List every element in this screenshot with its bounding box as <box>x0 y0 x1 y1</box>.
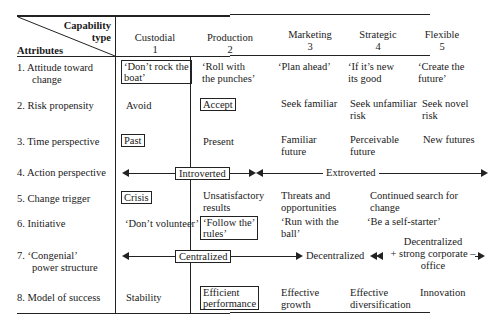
row-6-strategic-flexible: ‘Be a self-starter’ <box>367 216 441 228</box>
row-7-label: 7. ‘Congenial’ power structure <box>17 250 98 274</box>
bottom-rule <box>17 313 230 314</box>
arrow-right-icon <box>249 169 256 177</box>
cell-line: risk <box>422 110 468 122</box>
custodial-production-divider <box>190 56 191 313</box>
col-num: 1 <box>120 44 190 56</box>
row-6-production: ‘Follow the’ rules’ <box>200 216 258 240</box>
col-header-production: Production 2 <box>195 32 265 56</box>
cell-line: ‘Create the <box>418 61 464 73</box>
cell-line: boat’ <box>124 72 189 83</box>
cell-line: future’ <box>418 73 464 85</box>
row-8-custodial: Stability <box>126 292 162 304</box>
cell-line: Seek unfamiliar <box>350 98 417 110</box>
label-line: change <box>17 74 93 86</box>
cell-line: Seek novel <box>422 98 468 110</box>
row-2-label: 2. Risk propensity <box>17 100 94 112</box>
arrow-right-icon <box>478 252 485 260</box>
decentralized-strong-corporate-label: Decentralized + strong corporate – offic… <box>383 236 483 272</box>
row-6-marketing: ‘Run with the ball’ <box>281 216 339 240</box>
col-header-flexible: Flexible 5 <box>407 29 477 53</box>
cell-line: performance <box>203 298 256 309</box>
row-4-label: 4. Action perspective <box>17 167 106 179</box>
centralized-label: Centralized <box>175 250 231 263</box>
col-name: Flexible <box>407 29 477 41</box>
row-8-strategic: Effective diversification <box>350 287 411 311</box>
row-1-strategic: ‘If it’s new its good <box>348 61 394 85</box>
label-line: 7. ‘Congenial’ <box>17 250 98 262</box>
cell-line: change <box>370 202 458 214</box>
corner-capability-label: Capability <box>40 20 111 32</box>
row-8-flexible: Innovation <box>420 287 466 299</box>
corner-attributes-label: Attributes <box>17 45 63 57</box>
arrow-left-icon-2 <box>376 252 383 260</box>
row-1-production: ‘Roll with the punches’ <box>202 61 255 85</box>
cell-line: ball’ <box>281 228 339 240</box>
col-name: Production <box>195 32 265 44</box>
cell-line: Continued search for <box>370 190 458 202</box>
row-1-label: 1. Attitude toward change <box>17 62 93 86</box>
table-top-long-rule-right <box>230 14 430 15</box>
col-name: Marketing <box>275 29 345 41</box>
cell-line: the punches’ <box>202 73 255 85</box>
col-num: 5 <box>407 41 477 53</box>
cell-line: future <box>281 146 317 158</box>
row-2-marketing: Seek familiar <box>281 98 337 110</box>
col-header-strategic: Strategic 4 <box>343 29 413 53</box>
cell-line: Effective <box>281 287 319 299</box>
col-header-custodial: Custodial 1 <box>120 32 190 56</box>
row-3-strategic: Perceivable future <box>350 134 399 158</box>
row-2-flexible: Seek novel risk <box>422 98 468 122</box>
col-name: Strategic <box>343 29 413 41</box>
label-line: 1. Attitude toward <box>17 62 93 74</box>
cell-line: its good <box>348 73 394 85</box>
row-2-custodial: Avoid <box>126 100 151 112</box>
cell-line: future <box>350 146 399 158</box>
col-num: 4 <box>343 41 413 53</box>
col-num: 2 <box>195 44 265 56</box>
cell-line: rules’ <box>203 228 255 239</box>
row-3-custodial: Past <box>121 134 145 147</box>
table-bottom-long-rule-right <box>230 312 430 313</box>
row-1-marketing: ‘Plan ahead’ <box>278 61 331 73</box>
cell-line: Effective <box>350 287 411 299</box>
row-6-custodial: ‘Don’t volunteer’ <box>125 218 199 230</box>
row-1-flexible: ‘Create the future’ <box>418 61 464 85</box>
corner-type-label: type <box>40 32 111 44</box>
col-num: 3 <box>275 41 345 53</box>
cell-line: ‘Run with the <box>281 216 339 228</box>
row-5-marketing: Threats and opportunities <box>281 190 336 214</box>
introverted-label: Introverted <box>175 167 230 180</box>
cell-line: Unsatisfactory <box>203 190 264 202</box>
cell-line: opportunities <box>281 202 336 214</box>
col-header-marketing: Marketing 3 <box>275 29 345 53</box>
cell-line: ‘If it’s new <box>348 61 394 73</box>
row-3-flexible: New futures <box>423 134 475 146</box>
row-3-production: Present <box>203 136 234 148</box>
row-5-strategic-flexible: Continued search for change <box>370 190 458 214</box>
row-1-custodial: ‘Don’t rock the boat’ <box>121 60 192 84</box>
cell-line: ‘Don’t rock the <box>124 61 189 72</box>
col-name: Custodial <box>120 32 190 44</box>
label-line: power structure <box>17 262 98 274</box>
extroverted-label: Extroverted <box>323 167 379 178</box>
row-5-custodial: Crisis <box>121 191 152 204</box>
row-3-label: 3. Time perspective <box>17 136 100 148</box>
cell-line: results <box>203 202 264 214</box>
row-2-strategic: Seek unfamiliar risk <box>350 98 417 122</box>
row-8-production: Efficient performance <box>200 286 259 310</box>
cell-line: Efficient <box>203 287 256 298</box>
cell-line: ‘Follow the’ <box>203 217 255 228</box>
arrow-left-icon <box>122 169 129 177</box>
cell-line: Familiar <box>281 134 317 146</box>
cell-line: risk <box>350 110 417 122</box>
decentralized-label: Decentralized <box>306 250 364 262</box>
arrow-right-icon <box>481 169 488 177</box>
cell-line: diversification <box>350 299 411 311</box>
attributes-column-divider <box>115 15 116 314</box>
row-5-production: Unsatisfactory results <box>203 190 264 214</box>
cell-line: ‘Roll with <box>202 61 255 73</box>
row-6-label: 6. Initiative <box>17 218 65 230</box>
row-2-production: Accept <box>200 98 236 111</box>
row-8-label: 8. Model of success <box>17 292 100 304</box>
cell-line: Perceivable <box>350 134 399 146</box>
